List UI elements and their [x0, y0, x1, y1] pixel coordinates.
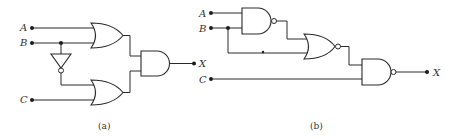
- nor-bubble: [336, 44, 341, 49]
- circuit-a: A B C X (a): [19, 22, 207, 131]
- wire-notb-to-or2: [61, 73, 95, 85]
- input-label-c: C: [20, 94, 28, 105]
- input-label-b: B: [19, 37, 27, 48]
- nor-gate: [304, 34, 335, 59]
- circuit-b: A B C X (b): [198, 8, 441, 131]
- wire-b-to-nor: [228, 28, 308, 53]
- and-gate: [141, 51, 170, 76]
- input-label-b: B: [198, 23, 206, 34]
- output-label-x: X: [432, 67, 441, 78]
- or-gate-top: [91, 23, 123, 48]
- input-label-a: A: [19, 22, 27, 33]
- nand-gate-1: [242, 8, 271, 34]
- wire-or1-to-and: [123, 36, 141, 57]
- output-label-x: X: [198, 58, 207, 69]
- caption-a: (a): [98, 121, 110, 131]
- wire-or2-to-and: [123, 71, 141, 93]
- output-terminal-x: [192, 62, 196, 66]
- wire-nand1-to-nor: [277, 21, 309, 39]
- input-label-c: C: [199, 74, 207, 85]
- output-terminal-x: [425, 70, 429, 74]
- caption-b: (b): [310, 121, 323, 131]
- not-bubble: [59, 68, 64, 73]
- or-gate-bottom: [91, 80, 123, 105]
- nand2-bubble: [391, 70, 396, 75]
- logic-circuit-diagram: A B C X (a) A B: [0, 0, 457, 139]
- wire-nor-to-nand2: [341, 47, 363, 66]
- not-gate: [51, 54, 71, 68]
- input-label-a: A: [198, 8, 206, 19]
- nand1-bubble: [272, 19, 277, 24]
- nand-gate-2: [362, 59, 391, 85]
- stray-dot: [262, 51, 264, 53]
